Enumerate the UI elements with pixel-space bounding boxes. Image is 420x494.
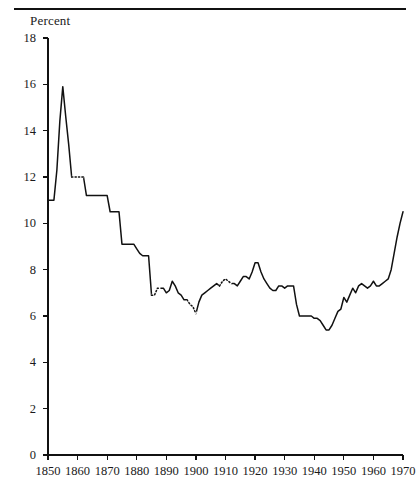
y-tick-label: 8: [10, 264, 36, 277]
data-series-line: [48, 87, 403, 330]
y-tick-label: 18: [10, 32, 36, 45]
x-tick-label: 1970: [383, 465, 420, 478]
axis-lines: [48, 38, 403, 455]
y-tick-label: 4: [10, 356, 36, 369]
y-tick-label: 6: [10, 310, 36, 323]
line-chart-plot: [0, 0, 420, 494]
chart-figure: Percent 024681012141618 1850186018701880…: [0, 0, 420, 494]
y-tick-label: 10: [10, 217, 36, 230]
y-tick-label: 12: [10, 171, 36, 184]
x-axis-ticks: [48, 455, 403, 460]
y-tick-label: 14: [10, 125, 36, 138]
y-axis-ticks: [43, 38, 48, 455]
y-tick-label: 0: [10, 449, 36, 462]
y-tick-label: 16: [10, 78, 36, 91]
y-tick-label: 2: [10, 403, 36, 416]
